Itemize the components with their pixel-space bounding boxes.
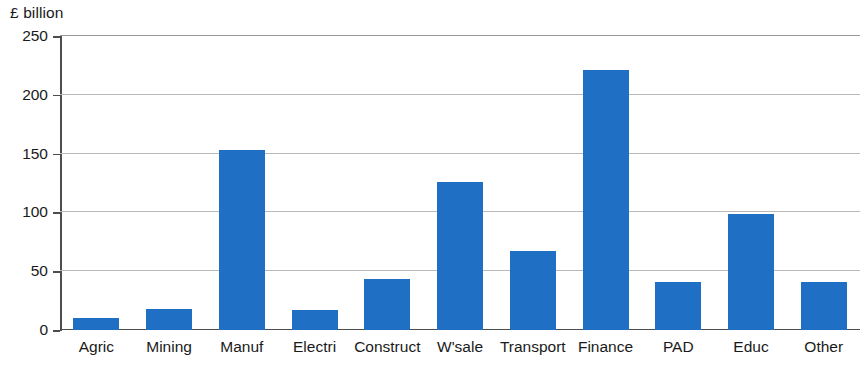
y-axis-unit-caption: £ billion <box>10 4 63 22</box>
y-tick-label: 250 <box>0 27 48 45</box>
bar-slot <box>278 36 351 330</box>
bar-slot <box>133 36 206 330</box>
y-tick-label: 50 <box>0 262 48 280</box>
y-tick-label: 150 <box>0 145 48 163</box>
bar <box>801 282 847 330</box>
y-tick-mark <box>53 212 60 214</box>
bar-slot <box>569 36 642 330</box>
bar-slot <box>787 36 860 330</box>
y-tick-mark <box>53 271 60 273</box>
y-tick-label: 0 <box>0 321 48 339</box>
bar <box>655 282 701 330</box>
x-tick-label: Other <box>787 334 860 362</box>
bars-group <box>60 36 860 330</box>
y-tick-mark <box>53 154 60 156</box>
y-tick-label: 100 <box>0 203 48 221</box>
bar-slot <box>496 36 569 330</box>
bar <box>728 214 774 330</box>
plot-area <box>60 36 860 330</box>
bar <box>510 251 556 330</box>
y-axis-tick-labels: 050100150200250 <box>0 36 50 330</box>
bar-slot <box>642 36 715 330</box>
x-tick-label: Mining <box>133 334 206 362</box>
bar <box>292 310 338 330</box>
y-tick-mark <box>53 330 60 332</box>
x-tick-label: Transport <box>496 334 569 362</box>
bar <box>437 182 483 330</box>
x-tick-label: PAD <box>642 334 715 362</box>
x-axis-category-labels: AgricMiningManufElectriConstructW'saleTr… <box>60 334 860 362</box>
bar-chart: £ billion 050100150200250 AgricMiningMan… <box>0 0 868 365</box>
bar <box>219 150 265 330</box>
bar <box>364 279 410 330</box>
y-tick-mark <box>53 36 60 38</box>
bar <box>583 70 629 330</box>
y-tick-label: 200 <box>0 86 48 104</box>
x-tick-label: Electri <box>278 334 351 362</box>
bar <box>73 318 119 330</box>
x-tick-label: W'sale <box>424 334 497 362</box>
x-tick-label: Finance <box>569 334 642 362</box>
bar <box>146 309 192 330</box>
bar-slot <box>351 36 424 330</box>
x-tick-label: Educ <box>715 334 788 362</box>
bar-slot <box>715 36 788 330</box>
bar-slot <box>424 36 497 330</box>
bar-slot <box>205 36 278 330</box>
x-tick-label: Manuf <box>205 334 278 362</box>
x-tick-label: Construct <box>351 334 424 362</box>
y-tick-mark <box>53 95 60 97</box>
bar-slot <box>60 36 133 330</box>
x-tick-label: Agric <box>60 334 133 362</box>
